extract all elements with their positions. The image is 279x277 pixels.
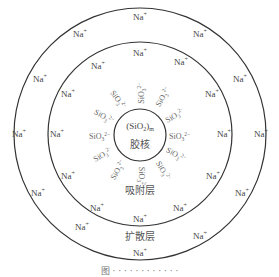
na-ion: Na+ [73,28,87,39]
silicate-ion: SiO32− [135,167,146,188]
na-ion: Na+ [12,128,26,139]
na-ion: Na+ [174,56,188,67]
na-ion: Na+ [33,73,47,84]
na-ion: Na+ [193,230,207,241]
na-ion: Na+ [206,170,220,181]
core-label: 胶核 [130,140,150,150]
na-ion: Na+ [205,88,219,99]
na-ion: Na+ [217,128,231,139]
na-ion: Na+ [235,187,249,198]
na-ion: Na+ [233,73,247,84]
silicate-ion: SiO32− [137,83,148,104]
na-ion: Na+ [254,128,268,139]
diffusion-layer-label: 扩散层 [125,232,155,242]
na-ion: Na+ [50,128,64,139]
na-ion: Na+ [61,170,75,181]
silicate-ion: SiO32− [89,132,110,143]
silicate-ion: SiO32− [169,132,190,143]
figure-caption: 图 · · · · · · · · · · · · [0,264,279,277]
na-ion: Na+ [61,88,75,99]
na-ion: Na+ [91,60,105,71]
na-ion: Na+ [193,28,207,39]
na-ion: Na+ [133,47,147,58]
core-formula: (SiO2)m [126,122,154,132]
na-ion: Na+ [133,11,147,22]
na-ion: Na+ [90,202,104,213]
na-ion: Na+ [133,247,147,258]
na-ion: Na+ [31,187,45,198]
core-ring [114,109,166,161]
middle-ring [48,42,232,226]
na-ion: Na+ [133,213,147,224]
na-ion: Na+ [173,202,187,213]
na-ion: Na+ [75,221,89,232]
